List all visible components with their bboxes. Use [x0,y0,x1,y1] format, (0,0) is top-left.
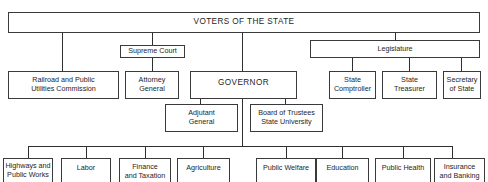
connector-dept-education [342,146,343,158]
department-box-highways: Highways and Public Works [3,158,53,182]
connector-dept-finance [145,146,146,158]
connector-legislature-treasurer [409,58,410,71]
connector-voters-supreme-court [152,32,153,45]
connector-dept-welfare [286,146,287,158]
railroad-label: Railroad and Public Utilities Commission [31,76,96,93]
secretary-of-state-box: Secretary of State [443,71,481,99]
department-label: Agriculture [186,164,220,173]
board-of-trustees-box: Board of Trustees State University [250,104,323,132]
connector-legislature-secretary [461,58,462,71]
department-label: Finance and Taxation [125,163,166,180]
department-label: Insurance and Banking [440,163,480,180]
state-comptroller-box: State Comptroller [329,71,376,99]
state-treasurer-box: State Treasurer [382,71,437,99]
connector-supreme-court-attorney [152,57,153,71]
department-box-education: Education [316,158,369,182]
state-comptroller-label: State Comptroller [334,76,371,93]
connector-dept-highways [28,146,29,158]
connector-governor-departments [242,98,243,146]
voters-label: VOTERS OF THE STATE [194,18,295,27]
railroad-commission-box: Railroad and Public Utilities Commission [8,71,119,99]
department-box-labor: Labor [61,158,111,182]
connector-voters-legislature [395,32,396,40]
department-label: Highways and Public Works [5,162,50,179]
secretary-of-state-label: Secretary of State [447,76,478,93]
connector-dept-agriculture [203,146,204,158]
supreme-court-label: Supreme Court [128,47,177,56]
department-label: Education [327,164,359,173]
connector-voters-governor [242,32,243,71]
department-box-public-welfare: Public Welfare [256,158,316,182]
legislature-label: Legislature [377,45,412,54]
connector-dept-insurance [452,146,453,158]
department-box-finance: Finance and Taxation [119,158,171,182]
department-box-agriculture: Agriculture [177,158,230,182]
connector-departments-bus [28,146,453,147]
connector-legislature-comptroller [352,58,353,71]
governor-label: GOVERNOR [218,79,269,88]
state-treasurer-label: State Treasurer [394,76,425,93]
department-label: Public Welfare [263,164,309,173]
adjutant-general-box: Adjutant General [165,104,238,132]
governor-box: GOVERNOR [190,71,297,99]
department-box-insurance: Insurance and Banking [434,158,485,182]
supreme-court-box: Supreme Court [120,45,185,58]
board-of-trustees-label: Board of Trustees State University [258,109,315,126]
connector-dept-health [403,146,404,158]
department-box-public-health: Public Health [375,158,431,182]
attorney-general-box: Attorney General [125,71,179,99]
department-label: Public Health [382,164,424,173]
adjutant-general-label: Adjutant General [188,109,214,126]
attorney-general-label: Attorney General [139,76,166,93]
voters-of-the-state-box: VOTERS OF THE STATE [8,12,480,33]
connector-dept-labor [86,146,87,158]
legislature-box: Legislature [310,40,480,58]
connector-voters-railroad [62,32,63,71]
department-label: Labor [77,164,95,173]
